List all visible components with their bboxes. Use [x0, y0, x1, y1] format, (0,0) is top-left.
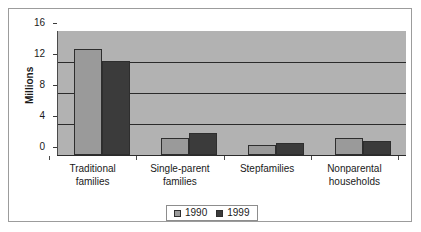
x-axis-category-label-line: households [311, 175, 398, 188]
x-axis-tick-mark [49, 156, 50, 160]
y-axis-tick-label: 4 [23, 111, 45, 121]
plot-area [57, 31, 406, 155]
x-axis-category-label: Single-parentfamilies [136, 162, 223, 188]
x-axis-category-label: Nonparentalhouseholds [311, 162, 398, 188]
x-axis-tick-mark [136, 156, 137, 160]
x-axis-category-label-line: Traditional [49, 162, 136, 175]
bar-1999-2 [276, 143, 304, 155]
legend-entry-1999: 1999 [216, 208, 249, 218]
chart-legend: 19901999 [166, 205, 258, 221]
bar-1990-0 [74, 49, 102, 155]
x-axis-category-label-line: Single-parent [136, 162, 223, 175]
legend-entry-label: 1999 [227, 208, 249, 218]
y-axis-tick-mark [53, 23, 57, 24]
x-axis-category-label-line: Nonparental [311, 162, 398, 175]
x-axis-tick-mark [224, 156, 225, 160]
bar-1999-1 [189, 133, 217, 155]
legend-entry-1990: 1990 [174, 208, 207, 218]
bar-1999-0 [102, 61, 130, 155]
x-axis-tick-mark [311, 156, 312, 160]
legend-entry-label: 1990 [185, 208, 207, 218]
x-axis-category-label: Stepfamilies [224, 162, 311, 175]
x-axis-category-label-line: families [49, 175, 136, 188]
legend-swatch-1990-icon [174, 210, 181, 217]
x-axis-category-label: Traditionalfamilies [49, 162, 136, 188]
legend-swatch-1999-icon [216, 210, 223, 217]
y-axis-tick-label: 8 [23, 80, 45, 90]
chart-figure-frame: Millions 0481216 TraditionalfamiliesSing… [8, 8, 412, 222]
x-axis-tick-mark [398, 156, 399, 160]
bar-1990-1 [161, 138, 189, 155]
bar-1999-3 [363, 141, 391, 155]
y-axis-tick-label: 0 [23, 142, 45, 152]
x-axis-category-label-line: families [136, 175, 223, 188]
x-axis-category-label-line: Stepfamilies [224, 162, 311, 175]
y-axis-tick-label: 12 [23, 49, 45, 59]
x-axis-line [57, 155, 406, 156]
bar-1990-3 [335, 138, 363, 155]
y-axis-tick-label: 16 [23, 18, 45, 28]
bar-1990-2 [248, 145, 276, 155]
